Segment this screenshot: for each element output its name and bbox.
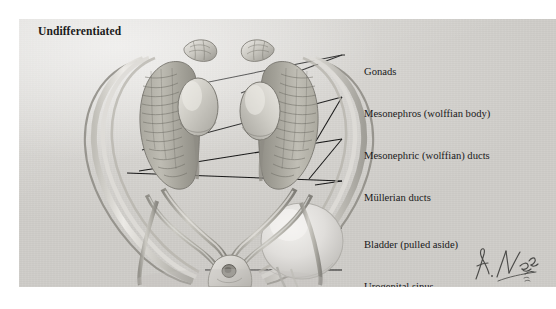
gonad-left [178,78,218,136]
adrenal-left [184,40,217,62]
label-bladder: Bladder (pulled aside) [364,240,458,251]
label-mesonephric-ducts: Mesonephric (wolffian) ducts [364,151,490,162]
plate-title: Undifferentiated [38,25,121,37]
gonad-right [240,82,280,140]
label-gonads: Gonads [364,67,396,78]
figure-root: Undifferentiated [0,0,556,309]
label-urogenital-sinus: Urogenital sinus [364,282,434,287]
label-mullerian-ducts: Müllerian ducts [364,193,431,204]
illustration-plate: Undifferentiated [19,19,556,287]
label-mesonephros: Mesonephros (wolffian body) [364,109,490,120]
adrenal-right [241,40,274,62]
